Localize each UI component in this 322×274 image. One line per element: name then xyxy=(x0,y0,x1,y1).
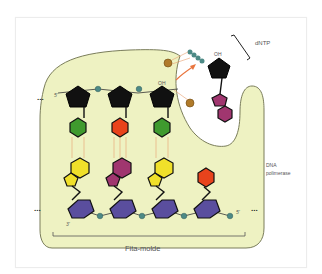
ellipsis-bottom-left: ... xyxy=(34,204,41,213)
ellipsis-bottom-right: ... xyxy=(251,204,258,213)
dna-polymerase-label-line1: DNA xyxy=(266,162,277,168)
oh-label-top: OH xyxy=(158,80,166,86)
dntp-label: dNTP xyxy=(255,40,270,46)
template-strand-label: Fita-molde xyxy=(125,244,160,253)
dntp-bracket xyxy=(231,35,250,60)
oh-label-incoming: OH xyxy=(214,51,222,57)
new-strand-sugars xyxy=(66,86,174,107)
incoming-dntp xyxy=(188,50,233,123)
dna-polymerase-label-line2: polimerase xyxy=(266,170,291,176)
dna-replication-diagram: dNTP DNA polimerase Fita-molde OH OH 5' … xyxy=(0,0,322,274)
ellipsis-top-left: ... xyxy=(37,93,44,102)
